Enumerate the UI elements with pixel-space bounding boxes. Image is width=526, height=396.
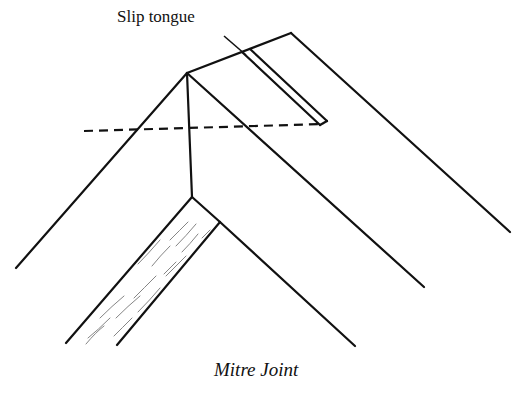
mitre-line: [187, 73, 192, 197]
right-outer-edge: [291, 33, 510, 232]
slip-tongue-tip: [320, 121, 327, 125]
diagram-caption: Mitre Joint: [214, 359, 298, 381]
right-face-edge: [187, 73, 424, 287]
slip-tongue-edge-1: [242, 52, 320, 125]
inner-corner: [192, 197, 220, 222]
slip-tongue-edge-2: [250, 49, 327, 121]
lower-right-edge: [220, 222, 355, 346]
leader-line: [224, 36, 246, 55]
left-outer-edge: [16, 73, 187, 268]
top-edge: [187, 33, 291, 73]
slip-tongue-label: Slip tongue: [117, 7, 195, 27]
hidden-tongue-line: [84, 124, 324, 131]
mitre-joint-drawing: [0, 0, 526, 396]
wood-grain-hatching: [86, 222, 210, 344]
lower-left-edge-2: [117, 222, 220, 345]
